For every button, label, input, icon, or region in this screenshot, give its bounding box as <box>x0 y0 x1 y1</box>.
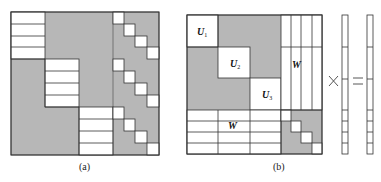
diagram-canvas: U1 U2 U3 W W <box>0 0 381 182</box>
equals-icon <box>353 78 363 84</box>
block-w-right <box>281 15 322 110</box>
vector-b <box>367 15 373 154</box>
times-icon <box>329 76 338 86</box>
panel-a-matrix <box>11 12 159 155</box>
label-w-bottom: W <box>228 120 238 131</box>
label-w-right: W <box>292 59 302 70</box>
caption-a: (a) <box>79 161 90 172</box>
vector-x <box>342 15 348 154</box>
panel-b-matrix <box>187 15 322 154</box>
caption-b: (b) <box>273 161 285 172</box>
